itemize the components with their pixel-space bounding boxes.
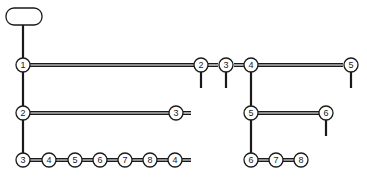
svg-text:4: 4 [172,155,177,165]
node-7-br: 7 [269,153,283,167]
svg-text:6: 6 [248,155,253,165]
svg-text:5: 5 [248,108,253,118]
node-1: 1 [16,58,30,72]
node-4-bottom: 4 [42,153,56,167]
svg-text:4: 4 [46,155,51,165]
node-6-bottom: 6 [93,153,107,167]
svg-text:2: 2 [198,60,203,70]
svg-text:7: 7 [273,155,278,165]
root-box [6,8,42,25]
svg-text:6: 6 [323,108,328,118]
node-4-top: 4 [244,58,258,72]
svg-text:3: 3 [173,108,178,118]
node-2-top: 2 [194,58,208,72]
node-5-mid: 5 [244,106,258,120]
svg-text:5: 5 [72,155,77,165]
svg-text:6: 6 [97,155,102,165]
node-6-mid: 6 [319,106,333,120]
svg-text:1: 1 [20,60,25,70]
node-3-bottom: 3 [16,153,30,167]
node-8-bottom: 8 [143,153,157,167]
svg-text:4: 4 [248,60,253,70]
node-4-end: 4 [168,153,182,167]
node-2: 2 [16,106,30,120]
node-3-top: 3 [219,58,233,72]
node-7-bottom: 7 [118,153,132,167]
node-8-br: 8 [294,153,308,167]
svg-text:7: 7 [122,155,127,165]
node-5-top: 5 [344,58,358,72]
node-6-br: 6 [244,153,258,167]
svg-text:8: 8 [147,155,152,165]
node-5-bottom: 5 [68,153,82,167]
svg-text:5: 5 [348,60,353,70]
svg-text:2: 2 [20,108,25,118]
node-3-right: 3 [169,106,183,120]
svg-text:3: 3 [223,60,228,70]
svg-text:8: 8 [298,155,303,165]
tree-diagram: 1 2 3 3 4 5 6 7 8 4 2 3 4 5 5 6 6 7 8 [0,0,367,183]
svg-text:3: 3 [20,155,25,165]
